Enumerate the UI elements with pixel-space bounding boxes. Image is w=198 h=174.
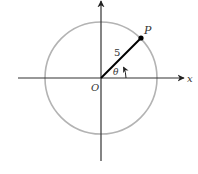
- angle-arc: [124, 67, 127, 78]
- radius-segment: [101, 38, 141, 78]
- angle-label: θ: [113, 67, 119, 77]
- x-axis-label: x: [187, 73, 193, 84]
- point-label: P: [143, 24, 152, 37]
- radius-label: 5: [114, 47, 120, 58]
- diagram-canvas: P 5 θ O x: [0, 0, 198, 174]
- origin-label: O: [91, 82, 99, 93]
- point-p: [138, 35, 143, 40]
